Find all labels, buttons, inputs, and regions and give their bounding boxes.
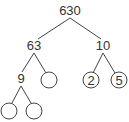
blank-circle-63-right xyxy=(41,72,57,88)
edge-10-5 xyxy=(103,53,115,73)
edge-9-blank-right xyxy=(21,86,31,103)
node-root: 630 xyxy=(59,3,81,18)
factor-tree: 630 63 10 9 2 5 xyxy=(0,0,129,122)
node-63: 63 xyxy=(27,38,41,53)
factor-tree-svg: 630 63 10 9 2 5 xyxy=(0,0,129,122)
edge-63-blank xyxy=(34,53,46,73)
edge-10-2 xyxy=(93,53,103,73)
edge-630-63 xyxy=(38,18,70,39)
edge-63-9 xyxy=(22,53,34,72)
node-9: 9 xyxy=(17,71,24,86)
blank-circle-9-right xyxy=(26,103,42,119)
edge-9-blank-left xyxy=(12,86,21,103)
blank-circle-9-left xyxy=(1,103,17,119)
edge-630-10 xyxy=(70,18,101,39)
node-5: 5 xyxy=(115,73,122,88)
node-10: 10 xyxy=(96,38,110,53)
node-2: 2 xyxy=(87,73,94,88)
